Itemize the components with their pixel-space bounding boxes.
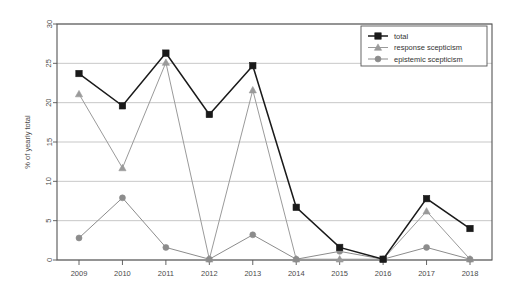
legend-label-0: total (394, 32, 409, 41)
data-point-square-marker-icon (76, 70, 82, 76)
data-point-circle-marker-icon (163, 244, 169, 250)
chart-canvas: 051015202530 200920102011201220132014201… (0, 0, 521, 304)
y-tick-label: 20 (45, 98, 54, 106)
x-tick-label: 2009 (71, 269, 88, 278)
data-point-square-marker-icon (423, 195, 429, 201)
y-tick-label: 25 (45, 59, 54, 67)
x-tick-label: 2012 (201, 269, 218, 278)
data-point-circle-marker-icon (375, 56, 381, 62)
x-tick-label: 2014 (288, 269, 305, 278)
data-point-square-marker-icon (119, 103, 125, 109)
data-point-square-marker-icon (163, 50, 169, 56)
y-axis-ticks: 051015202530 (45, 20, 58, 262)
data-point-circle-marker-icon (206, 256, 212, 262)
x-tick-label: 2016 (375, 269, 392, 278)
y-tick-label: 5 (45, 219, 54, 223)
data-point-square-marker-icon (206, 111, 212, 117)
y-tick-label: 0 (45, 258, 54, 262)
data-point-circle-marker-icon (467, 256, 473, 262)
y-tick-label: 15 (45, 138, 54, 146)
x-tick-label: 2015 (331, 269, 348, 278)
legend-label-1: response scepticism (394, 43, 462, 52)
x-tick-label: 2010 (114, 269, 131, 278)
data-point-circle-marker-icon (250, 232, 256, 238)
data-point-square-marker-icon (375, 33, 381, 39)
data-point-square-marker-icon (467, 225, 473, 231)
data-point-square-marker-icon (336, 244, 342, 250)
data-point-square-marker-icon (293, 204, 299, 210)
x-tick-label: 2013 (244, 269, 261, 278)
data-point-circle-marker-icon (119, 195, 125, 201)
line-chart: 051015202530 200920102011201220132014201… (0, 0, 521, 304)
legend-label-2: epistemic scepticism (394, 55, 463, 64)
x-tick-label: 2011 (158, 269, 174, 278)
x-tick-label: 2018 (462, 269, 479, 278)
x-axis-ticks: 2009201020112012201320142015201620172018 (71, 260, 479, 278)
data-point-square-marker-icon (380, 256, 386, 262)
chart-legend: totalresponse scepticismepistemic scepti… (361, 26, 487, 66)
data-point-circle-marker-icon (76, 235, 82, 241)
y-axis-title: % of yearly total (23, 115, 32, 169)
y-tick-label: 10 (45, 177, 54, 185)
x-tick-label: 2017 (418, 269, 435, 278)
data-point-square-marker-icon (250, 62, 256, 68)
y-tick-label: 30 (45, 20, 54, 28)
data-point-circle-marker-icon (424, 244, 430, 250)
data-point-circle-marker-icon (293, 256, 299, 262)
